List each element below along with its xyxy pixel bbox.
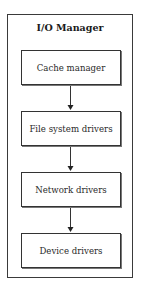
arrow-filesystem-to-network	[68, 147, 74, 171]
arrow-cache-to-filesystem	[68, 86, 74, 110]
arrows-layer	[0, 0, 141, 295]
arrow-network-to-device	[68, 208, 74, 232]
